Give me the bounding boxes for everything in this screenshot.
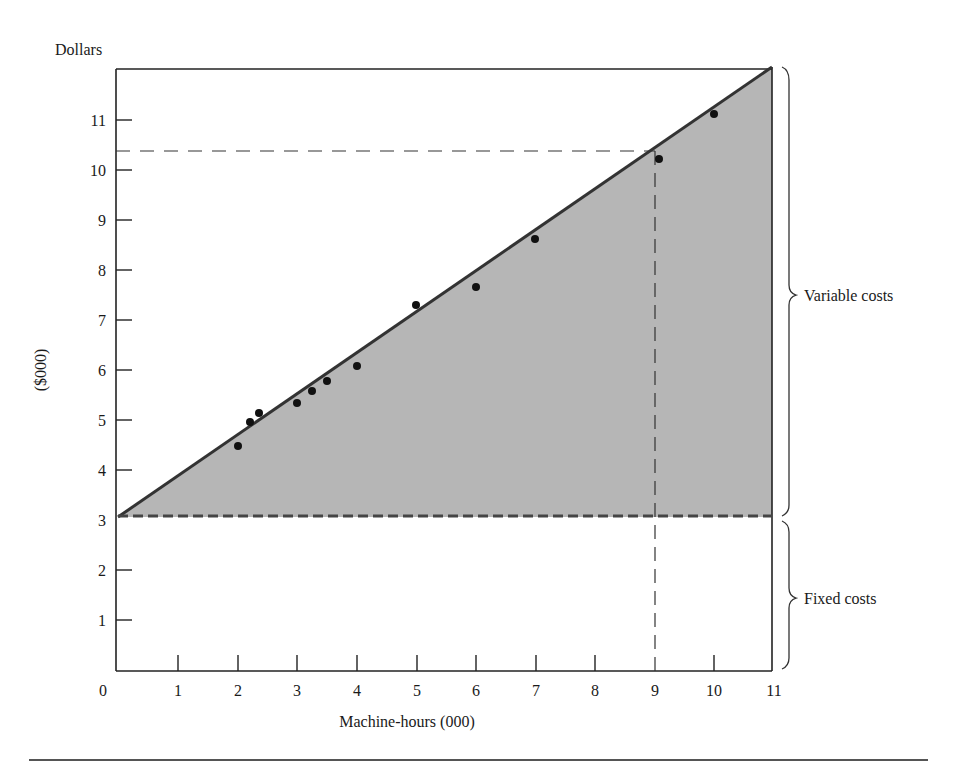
x-tick-labels: 0 1 2 3 4 5 6 7 8 9 10 11 <box>99 682 782 699</box>
x-tick-label: 3 <box>293 682 301 699</box>
y-tick-label: 4 <box>98 462 106 479</box>
y-tick-label: 8 <box>98 262 106 279</box>
variable-costs-label: Variable costs <box>804 287 893 304</box>
x-tick-label: 0 <box>99 682 107 699</box>
y-tick-label: 5 <box>98 412 106 429</box>
data-point <box>655 155 663 163</box>
data-point <box>710 110 718 118</box>
fixed-costs-brace-icon <box>782 521 796 669</box>
bottom-rule <box>29 759 928 761</box>
x-tick-label: 1 <box>174 682 182 699</box>
y-ticks <box>116 120 132 620</box>
y-tick-labels: 11 10 9 8 7 6 5 4 3 2 1 <box>90 112 106 629</box>
x-tick-label: 9 <box>651 682 659 699</box>
x-tick-label: 10 <box>706 682 722 699</box>
data-point <box>246 418 254 426</box>
data-point <box>353 362 361 370</box>
x-axis-title: Machine-hours (000) <box>339 713 475 731</box>
data-point <box>531 235 539 243</box>
cost-chart: 11 10 9 8 7 6 5 4 3 2 1 0 1 2 3 4 5 6 7 … <box>0 0 970 777</box>
y-tick-label: 6 <box>98 362 106 379</box>
y-axis-title-units: ($000) <box>32 349 50 392</box>
x-tick-label: 7 <box>532 682 540 699</box>
x-tick-label: 4 <box>353 682 361 699</box>
y-tick-label: 11 <box>91 112 106 129</box>
data-point <box>472 283 480 291</box>
data-point <box>323 377 331 385</box>
x-tick-label: 5 <box>413 682 421 699</box>
variable-costs-brace-icon <box>782 67 796 516</box>
x-tick-label: 11 <box>766 682 781 699</box>
fixed-costs-label: Fixed costs <box>804 590 876 607</box>
data-point <box>308 387 316 395</box>
x-tick-label: 6 <box>472 682 480 699</box>
y-tick-label: 2 <box>98 562 106 579</box>
y-tick-label: 3 <box>98 512 106 529</box>
data-point <box>234 442 242 450</box>
x-tick-label: 8 <box>591 682 599 699</box>
y-tick-label: 1 <box>98 612 106 629</box>
y-axis-title-dollars: Dollars <box>55 41 102 58</box>
data-point <box>255 409 263 417</box>
data-point <box>412 301 420 309</box>
y-tick-label: 7 <box>98 312 106 329</box>
x-ticks <box>178 655 714 671</box>
y-tick-label: 9 <box>98 212 106 229</box>
data-point <box>293 399 301 407</box>
x-tick-label: 2 <box>234 682 242 699</box>
y-tick-label: 10 <box>90 162 106 179</box>
